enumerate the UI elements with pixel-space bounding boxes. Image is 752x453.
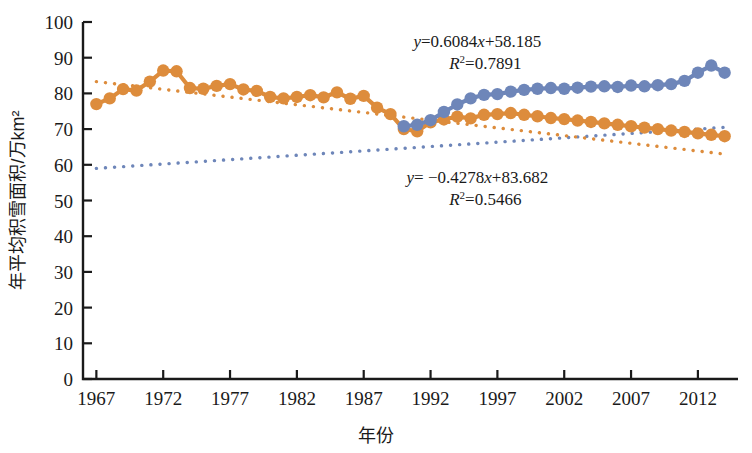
data-point xyxy=(464,92,476,104)
data-point xyxy=(705,59,717,71)
data-point xyxy=(264,91,276,103)
y-tick-label: 20 xyxy=(54,298,73,319)
data-point xyxy=(571,81,583,93)
data-point xyxy=(692,66,704,78)
data-point xyxy=(678,75,690,87)
data-point xyxy=(558,83,570,95)
data-point xyxy=(451,98,463,110)
snow-cover-area-chart: 0102030405060708090100196719721977198219… xyxy=(0,0,752,453)
data-point xyxy=(625,120,637,132)
data-point xyxy=(491,88,503,100)
data-point xyxy=(531,110,543,122)
data-point xyxy=(598,117,610,129)
data-point xyxy=(571,114,583,126)
data-point xyxy=(130,84,142,96)
y-tick-label: 30 xyxy=(54,262,73,283)
data-point xyxy=(652,79,664,91)
x-tick-label: 2007 xyxy=(612,388,650,409)
data-point xyxy=(718,66,730,78)
data-point xyxy=(90,98,102,110)
data-point xyxy=(611,81,623,93)
data-point xyxy=(638,80,650,92)
data-point xyxy=(598,80,610,92)
data-point xyxy=(478,109,490,121)
data-point xyxy=(358,90,370,102)
y-tick-label: 70 xyxy=(54,119,73,140)
x-tick-label: 1987 xyxy=(345,388,383,409)
data-point xyxy=(518,109,530,121)
data-point xyxy=(558,113,570,125)
data-point xyxy=(545,82,557,94)
data-point xyxy=(251,85,263,97)
data-point xyxy=(585,80,597,92)
data-point xyxy=(438,106,450,118)
data-point xyxy=(344,93,356,105)
data-point xyxy=(424,114,436,126)
data-point xyxy=(478,89,490,101)
data-point xyxy=(197,83,209,95)
data-point xyxy=(224,78,236,90)
data-point xyxy=(451,110,463,122)
y-tick-label: 10 xyxy=(54,333,73,354)
data-point xyxy=(718,130,730,142)
data-point xyxy=(384,108,396,120)
x-tick-label: 2012 xyxy=(679,388,717,409)
equation-line: y= −0.4278x+83.682 xyxy=(405,168,549,187)
data-point xyxy=(518,84,530,96)
data-point xyxy=(170,65,182,77)
data-point xyxy=(157,64,169,76)
data-point xyxy=(505,107,517,119)
chart-background xyxy=(0,0,752,453)
data-point xyxy=(144,75,156,87)
x-tick-label: 1967 xyxy=(77,388,115,409)
data-point xyxy=(464,112,476,124)
data-point xyxy=(237,83,249,95)
data-point xyxy=(531,83,543,95)
data-point xyxy=(652,123,664,135)
y-tick-label: 50 xyxy=(54,191,73,212)
data-point xyxy=(317,91,329,103)
data-point xyxy=(692,127,704,139)
x-tick-label: 1992 xyxy=(412,388,450,409)
x-tick-label: 1972 xyxy=(144,388,182,409)
chart-canvas: 0102030405060708090100196719721977198219… xyxy=(0,0,752,453)
data-point xyxy=(398,120,410,132)
data-point xyxy=(184,82,196,94)
data-point xyxy=(625,79,637,91)
y-tick-label: 90 xyxy=(54,48,73,69)
data-point xyxy=(678,126,690,138)
data-point xyxy=(705,129,717,141)
data-point xyxy=(371,101,383,113)
data-point xyxy=(210,80,222,92)
data-point xyxy=(505,85,517,97)
x-tick-label: 2002 xyxy=(545,388,583,409)
data-point xyxy=(638,121,650,133)
data-point xyxy=(585,116,597,128)
x-tick-label: 1982 xyxy=(278,388,316,409)
y-tick-label: 100 xyxy=(45,12,74,33)
y-tick-label: 80 xyxy=(54,83,73,104)
data-point xyxy=(331,86,343,98)
r-squared-line: R2=0.5466 xyxy=(448,189,521,209)
data-point xyxy=(104,92,116,104)
data-point xyxy=(411,119,423,131)
data-point xyxy=(665,124,677,136)
x-tick-label: 1997 xyxy=(478,388,516,409)
data-point xyxy=(277,92,289,104)
y-tick-label: 40 xyxy=(54,226,73,247)
data-point xyxy=(545,112,557,124)
data-point xyxy=(665,78,677,90)
y-axis-title: 年平均积雪面积/万km² xyxy=(8,111,28,290)
x-tick-label: 1977 xyxy=(211,388,249,409)
data-point xyxy=(304,89,316,101)
data-point xyxy=(611,119,623,131)
data-point xyxy=(491,108,503,120)
r-squared-line: R2=0.7891 xyxy=(448,53,521,73)
y-tick-label: 0 xyxy=(64,369,74,390)
y-tick-label: 60 xyxy=(54,155,73,176)
x-axis-title: 年份 xyxy=(358,426,394,446)
equation-line: y=0.6084x+58.185 xyxy=(411,32,541,51)
data-point xyxy=(117,83,129,95)
data-point xyxy=(291,91,303,103)
